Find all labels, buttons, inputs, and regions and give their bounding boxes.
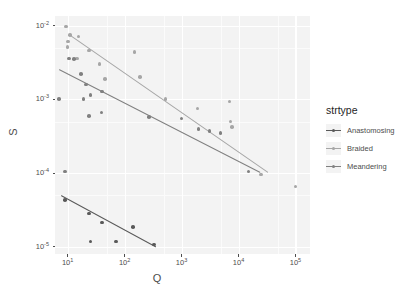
gridline-vertical [239, 16, 240, 254]
y-tick-mark [53, 25, 56, 26]
data-point [79, 72, 83, 76]
data-point [87, 49, 91, 53]
data-point [63, 170, 67, 174]
gridline-vertical [164, 16, 165, 254]
legend-item-meandering[interactable]: Meandering [326, 159, 395, 174]
data-point [138, 75, 142, 79]
legend: strtype AnastomosingBraidedMeandering [326, 104, 395, 177]
gridline-vertical [125, 16, 126, 254]
x-tick-label: 101 [53, 258, 83, 267]
data-point [197, 127, 201, 131]
plot-panel [55, 16, 310, 254]
y-tick-label: 10-2 [21, 21, 49, 30]
y-tick-mark [53, 246, 56, 247]
legend-key-icon [326, 142, 341, 155]
data-point [230, 125, 234, 129]
x-tick-mark [238, 254, 239, 257]
data-point [98, 62, 102, 66]
gridline-vertical [295, 16, 296, 254]
data-point [228, 100, 232, 104]
legend-key-icon [326, 124, 341, 137]
data-point [131, 225, 135, 229]
data-point [82, 97, 86, 101]
data-point [63, 198, 67, 202]
data-point [87, 212, 91, 216]
legend-items: AnastomosingBraidedMeandering [326, 123, 395, 174]
data-point [196, 107, 200, 111]
data-point [180, 117, 184, 121]
y-tick-label: 10-4 [21, 168, 49, 177]
data-point [84, 83, 88, 87]
data-point [68, 33, 72, 37]
data-point [66, 40, 70, 44]
legend-key-icon [326, 160, 341, 173]
data-point [164, 97, 168, 101]
gridline-horizontal [55, 173, 310, 174]
x-axis-title: Q [0, 272, 409, 284]
y-tick-mark [53, 99, 56, 100]
x-tick-mark [124, 254, 125, 257]
data-point [100, 90, 104, 94]
data-point [89, 240, 93, 244]
gridline-vertical [278, 16, 279, 254]
y-tick-label: 10-5 [21, 242, 49, 251]
legend-item-label: Meandering [347, 162, 387, 171]
chart-root: 10110210310410510-210-310-410-5 S Q strt… [0, 0, 409, 292]
legend-title: strtype [326, 104, 395, 116]
data-point [77, 35, 81, 39]
data-point [133, 50, 137, 54]
data-point [103, 77, 107, 81]
data-point [219, 131, 223, 135]
legend-item-anastomosing[interactable]: Anastomosing [326, 123, 395, 138]
x-tick-label: 103 [167, 258, 197, 267]
x-tick-label: 104 [224, 258, 254, 267]
x-tick-label: 102 [110, 258, 140, 267]
data-point [208, 129, 212, 133]
gridline-horizontal [55, 26, 310, 27]
data-point [229, 120, 233, 124]
data-point [64, 25, 68, 29]
data-point [87, 114, 91, 118]
data-point [259, 173, 263, 177]
legend-item-braided[interactable]: Braided [326, 141, 395, 156]
y-tick-label: 10-3 [21, 94, 49, 103]
legend-key-dot [332, 147, 336, 151]
x-tick-mark [295, 254, 296, 257]
gridline-vertical [221, 16, 222, 254]
legend-key-dot [332, 165, 336, 169]
gridline-vertical [182, 16, 183, 254]
x-tick-label: 105 [280, 258, 310, 267]
y-tick-mark [53, 173, 56, 174]
legend-key-dot [332, 129, 336, 133]
data-point [89, 93, 93, 97]
y-axis-title: S [7, 125, 19, 139]
gridline-horizontal [55, 99, 310, 100]
data-point [72, 57, 76, 61]
data-point [294, 185, 298, 189]
gridline-vertical [68, 16, 69, 254]
x-tick-mark [181, 254, 182, 257]
gridline-vertical [107, 16, 108, 254]
gridline-horizontal [55, 247, 310, 248]
legend-item-label: Anastomosing [347, 126, 395, 135]
x-tick-mark [67, 254, 68, 257]
data-point [147, 115, 151, 119]
data-point [100, 111, 104, 115]
data-point [114, 240, 118, 244]
data-point [57, 97, 61, 101]
data-point [100, 221, 104, 225]
legend-item-label: Braided [347, 144, 373, 153]
data-point [67, 57, 71, 61]
